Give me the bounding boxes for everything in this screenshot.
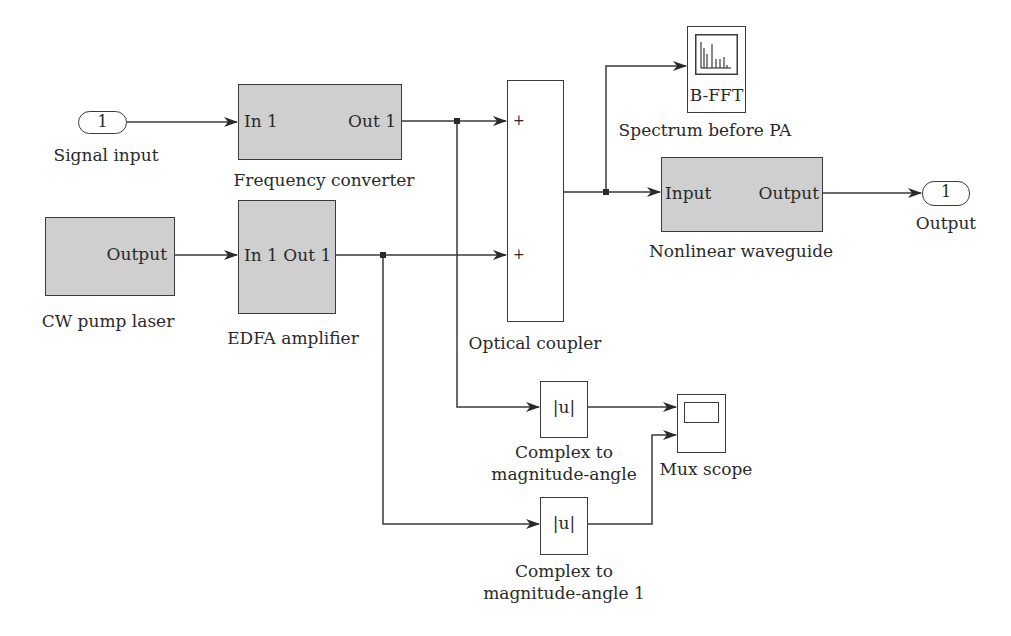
in-port-label: Input [665, 185, 711, 202]
complex-to-magnitude-angle-1-block[interactable]: |u| [540, 497, 588, 555]
out-port-label: Output [107, 246, 167, 263]
cw-pump-laser-label: CW pump laser [42, 310, 175, 332]
mux-scope-label: Mux scope [660, 458, 753, 480]
junction-dot [603, 189, 609, 195]
mux-scope-block[interactable] [677, 394, 726, 453]
edfa-amplifier-label: EDFA amplifier [227, 327, 359, 349]
junction-dot [454, 118, 460, 124]
signal-input-port[interactable]: 1 [78, 111, 127, 134]
plus-sign: + [513, 247, 525, 261]
output-port[interactable]: 1 [922, 181, 970, 206]
out-port-label: Out 1 [348, 113, 396, 130]
complex-to-magnitude-angle-1-label-1: Complex to [515, 560, 613, 582]
signal-input-label: Signal input [54, 144, 159, 166]
edfa-amplifier-block[interactable]: In 1 Out 1 [238, 200, 336, 314]
junction-dot [380, 252, 386, 258]
complex-to-magnitude-angle-1-label-2: magnitude-angle 1 [483, 582, 645, 604]
out-port-label: Output [759, 185, 819, 202]
abs-symbol: |u| [541, 515, 587, 532]
frequency-converter-block[interactable]: In 1 Out 1 [238, 84, 402, 160]
scope-screen-icon [684, 402, 719, 423]
cw-pump-laser-block[interactable]: Output [45, 217, 175, 296]
optical-coupler-label: Optical coupler [469, 332, 602, 354]
frequency-converter-label: Frequency converter [234, 169, 415, 191]
nonlinear-waveguide-block[interactable]: Input Output [661, 157, 823, 232]
complex-to-magnitude-angle-block[interactable]: |u| [540, 381, 588, 438]
nonlinear-waveguide-label: Nonlinear waveguide [649, 240, 833, 262]
spectrum-analyzer-block[interactable]: B-FFT [687, 26, 746, 113]
ports-label: In 1 Out 1 [244, 247, 331, 264]
spectrum-before-pa-label: Spectrum before PA [619, 119, 792, 141]
output-label: Output [916, 212, 976, 234]
spectrum-icon [695, 34, 738, 75]
in-port-label: In 1 [244, 113, 278, 130]
plus-sign: + [513, 113, 525, 127]
optical-coupler-block[interactable]: + + [507, 80, 564, 322]
complex-to-magnitude-angle-label-2: magnitude-angle [491, 463, 636, 485]
complex-to-magnitude-angle-label-1: Complex to [515, 441, 613, 463]
abs-symbol: |u| [541, 399, 587, 416]
fft-text: B-FFT [688, 87, 745, 104]
